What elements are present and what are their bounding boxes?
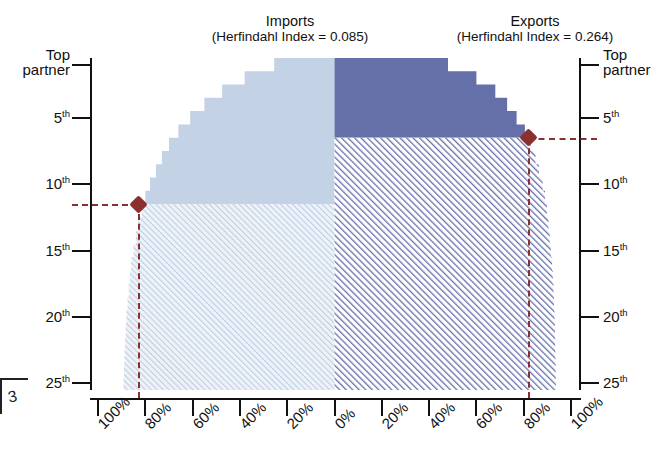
y-tick-left-15 <box>72 250 91 252</box>
exports-title-text: Exports <box>400 14 670 30</box>
y-label-right-5: 5th <box>603 109 671 126</box>
y-tick-right-10 <box>580 183 599 185</box>
imports-marker-leader-horizontal <box>72 204 138 206</box>
clipped-header-text <box>40 0 460 6</box>
y-tick-left-10 <box>72 183 91 185</box>
y-label-left-15: 15th <box>4 242 70 259</box>
y-tick-right-15 <box>580 250 599 252</box>
page-number-artifact: 3 <box>0 378 28 414</box>
y-label-left-10: 10th <box>4 175 70 192</box>
plot-area <box>98 58 571 390</box>
y-label-right-20: 20th <box>603 308 671 325</box>
imports-title-text: Imports <box>160 14 420 30</box>
exports-marker-leader-horizontal <box>528 138 597 140</box>
y-tick-left-20 <box>72 316 91 318</box>
imports-panel-title: Imports (Herfindahl Index = 0.085) <box>160 14 420 44</box>
y-tick-right-25 <box>580 382 599 384</box>
y-label-left-1: Toppartner <box>4 47 70 79</box>
x-tick-80%-9 <box>523 399 525 416</box>
y-tick-left-1 <box>72 64 91 66</box>
y-axis-left <box>90 58 92 390</box>
y-tick-left-5 <box>72 117 91 119</box>
exports-panel-title: Exports (Herfindahl Index = 0.264) <box>400 14 670 44</box>
imports-marker-leader-vertical <box>138 204 140 398</box>
y-label-right-1: Toppartner <box>603 47 671 79</box>
y-tick-right-5 <box>580 117 599 119</box>
imports-subtitle-text: (Herfindahl Index = 0.085) <box>160 30 420 45</box>
y-label-left-20: 20th <box>4 308 70 325</box>
figure-canvas: Imports (Herfindahl Index = 0.085) Expor… <box>0 0 671 450</box>
concentration-area-chart <box>98 58 571 390</box>
x-tick-0%-5 <box>334 399 336 416</box>
y-tick-left-25 <box>72 382 91 384</box>
y-label-left-5: 5th <box>4 109 70 126</box>
y-label-right-15: 15th <box>603 242 671 259</box>
x-tick-60%-2 <box>192 399 194 416</box>
y-tick-right-1 <box>580 64 599 66</box>
y-tick-right-20 <box>580 316 599 318</box>
exports-marker-leader-vertical <box>528 138 530 398</box>
x-tick-20%-6 <box>381 399 383 416</box>
y-axis-right <box>579 58 581 390</box>
y-label-right-25: 25th <box>603 374 671 391</box>
page-number-text: 3 <box>6 387 18 406</box>
y-label-right-10: 10th <box>603 175 671 192</box>
exports-subtitle-text: (Herfindahl Index = 0.264) <box>400 30 670 45</box>
